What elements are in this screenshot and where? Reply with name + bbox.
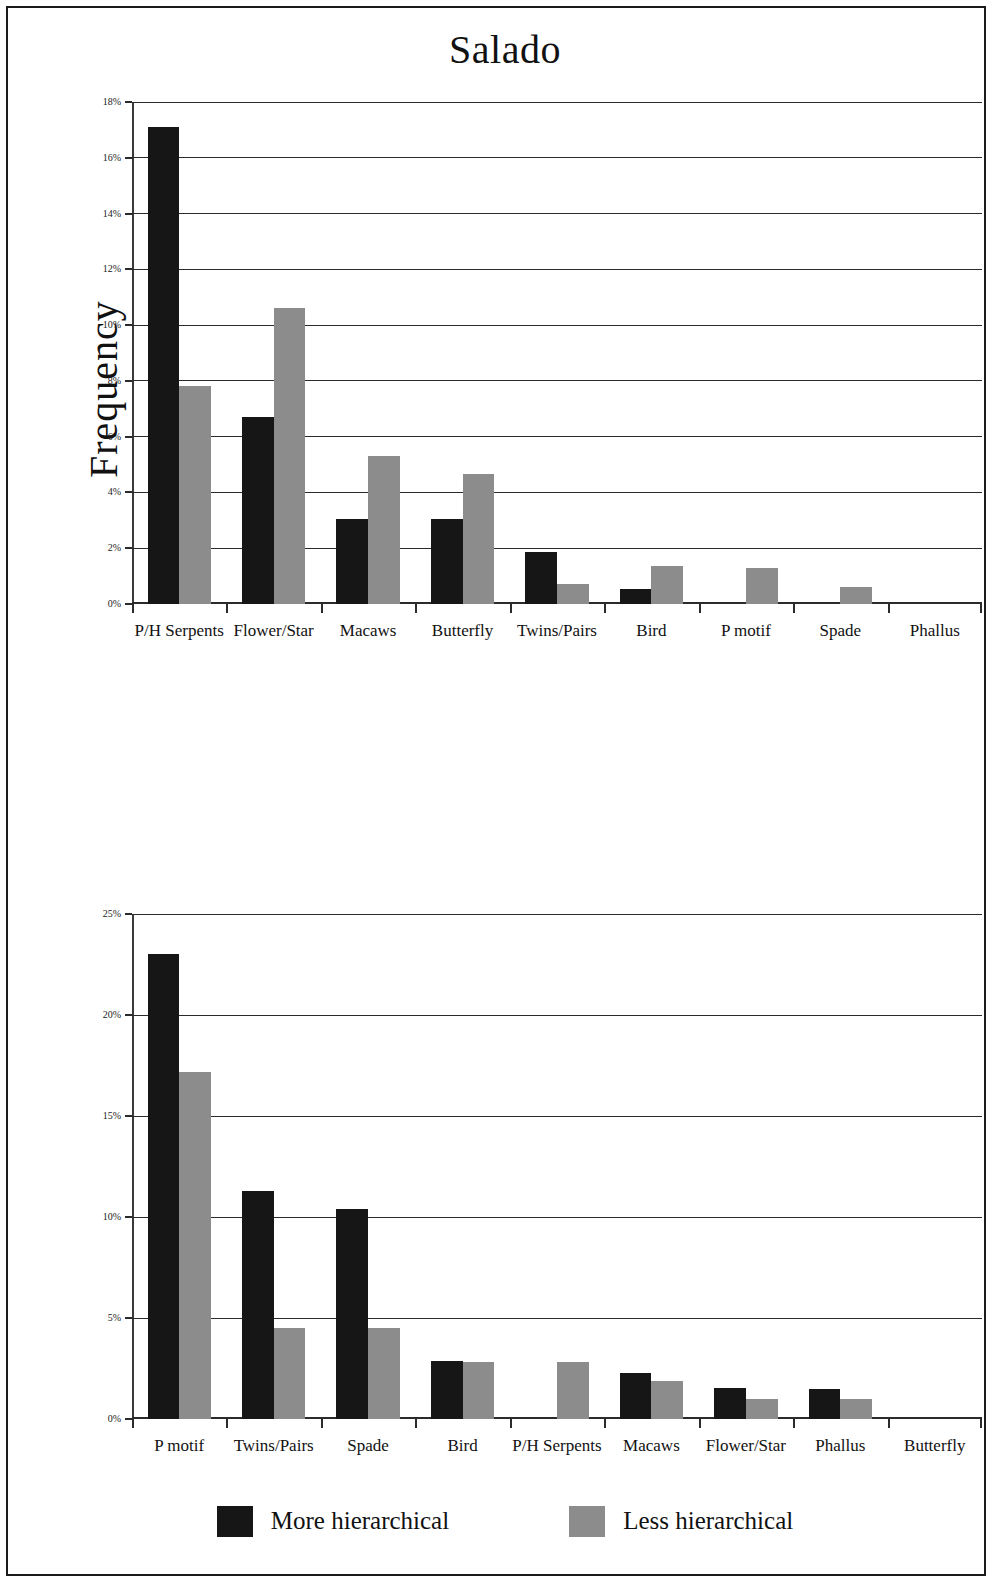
y-tick-label: 4% [108,487,121,497]
bar-less-hierarchical [179,1072,211,1419]
bar-group [903,914,966,1419]
bar-less-hierarchical [368,456,400,604]
x-axis-labels-salado: P/H SerpentsFlower/StarMacawsButterflyTw… [132,604,982,644]
bar-group [336,102,399,604]
x-axis-category-label: Butterfly [888,1436,982,1456]
bar-less-hierarchical [179,386,211,604]
x-axis-category-label: Flower/Star [226,621,320,641]
x-tick-mark [226,604,228,613]
x-axis-category-label: Bird [415,1436,509,1456]
x-tick-mark [699,1419,701,1428]
bar-more-hierarchical [336,1209,368,1419]
bar-less-hierarchical [557,584,589,604]
bar-more-hierarchical [525,552,557,604]
bar-less-hierarchical [368,1328,400,1419]
x-axis-category-label: Phallus [793,1436,887,1456]
bar-more-hierarchical [242,417,274,604]
x-axis-category-label: Macaws [321,621,415,641]
x-tick-mark [510,1419,512,1428]
y-tick-label: 20% [103,1010,121,1020]
bar-group [148,914,211,1419]
y-tick-label: 18% [103,97,121,107]
y-tick-label: 2% [108,543,121,553]
x-tick-mark [604,1419,606,1428]
bar-less-hierarchical [274,308,306,604]
y-tick-label: 10% [103,1212,121,1222]
bar-group [620,102,683,604]
y-tick-mark [125,101,132,103]
y-tick-label: 0% [108,599,121,609]
x-tick-mark [321,1419,323,1428]
bar-group [714,102,777,604]
x-tick-mark [132,1419,134,1428]
x-tick-mark [321,604,323,613]
x-axis-category-label: Spade [321,1436,415,1456]
y-tick-label: 6% [108,432,121,442]
y-tick-mark [125,1418,132,1420]
y-tick-label: 5% [108,1313,121,1323]
x-tick-mark [699,604,701,613]
x-tick-mark [415,1419,417,1428]
bar-less-hierarchical [746,568,778,604]
x-tick-mark [604,604,606,613]
plot-area-chihuahuan: 0%5%10%15%20%25% P motifTwins/PairsSpade… [132,914,982,1419]
bar-group [431,102,494,604]
x-axis-category-label: Twins/Pairs [226,1436,320,1456]
bar-group [525,914,588,1419]
x-tick-mark [415,604,417,613]
x-axis-category-label: Spade [793,621,887,641]
y-tick-label: 10% [103,320,121,330]
y-tick-mark [125,436,132,438]
chart-title-salado: Salado [8,26,994,73]
x-tick-mark [980,604,982,613]
x-axis-category-label: Twins/Pairs [510,621,604,641]
legend-swatch-less-hierarchical [569,1506,605,1537]
page-frame: Salado Frequency 0%2%4%6%8%10%12%14%16%1… [6,6,986,1576]
bar-more-hierarchical [336,519,368,604]
bar-group [809,102,872,604]
bar-group [242,102,305,604]
legend-swatch-more-hierarchical [217,1506,253,1537]
bar-less-hierarchical [651,1381,683,1419]
y-tick-label: 25% [103,909,121,919]
bar-group [148,102,211,604]
bar-more-hierarchical [431,1361,463,1419]
y-tick-mark [125,1216,132,1218]
x-axis-category-label: Phallus [888,621,982,641]
y-tick-mark [125,1014,132,1016]
bar-less-hierarchical [840,1399,872,1419]
y-tick-label: 0% [108,1414,121,1424]
plot-area-salado: 0%2%4%6%8%10%12%14%16%18% P/H SerpentsFl… [132,102,982,604]
bar-less-hierarchical [746,1399,778,1419]
bars-layer-salado [132,102,982,604]
bar-more-hierarchical [431,519,463,604]
bar-more-hierarchical [148,127,180,604]
bar-group [903,102,966,604]
bar-more-hierarchical [148,954,180,1419]
bar-more-hierarchical [242,1191,274,1419]
y-tick-label: 12% [103,264,121,274]
y-tick-label: 16% [103,153,121,163]
bar-group [336,914,399,1419]
x-tick-mark [132,604,134,613]
y-tick-label: 15% [103,1111,121,1121]
y-tick-mark [125,324,132,326]
y-tick-mark [125,157,132,159]
x-axis-category-label: Flower/Star [699,1436,793,1456]
chart-chihuahuan: Chihuahuan Frequency 0%5%10%15%20%25% P … [8,823,994,1523]
bar-less-hierarchical [463,474,495,604]
x-axis-category-label: P/H Serpents [510,1436,604,1456]
x-axis-category-label: Macaws [604,1436,698,1456]
chart-legend: More hierarchical Less hierarchical [8,1491,994,1551]
legend-label-less-hierarchical: Less hierarchical [623,1507,793,1535]
bar-less-hierarchical [840,587,872,604]
x-tick-mark [793,1419,795,1428]
bar-group [525,102,588,604]
x-axis-category-label: P motif [699,621,793,641]
bars-layer-chihuahuan [132,914,982,1419]
bar-more-hierarchical [620,1373,652,1419]
x-tick-mark [980,1419,982,1428]
bar-more-hierarchical [809,1389,841,1419]
y-tick-mark [125,491,132,493]
bar-less-hierarchical [274,1328,306,1419]
